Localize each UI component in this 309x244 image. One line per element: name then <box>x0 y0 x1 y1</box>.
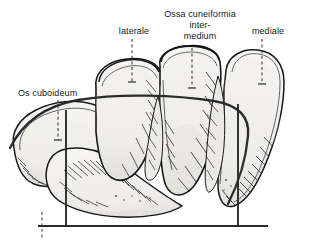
bone-cuneiforme-mediale <box>218 50 284 207</box>
label-ossa-cuneiformia-group: Ossa cuneiformia inter- medium <box>164 9 236 42</box>
label-os-cuboideum: Os cuboideum <box>18 88 77 99</box>
label-intermedium-line1: inter- <box>164 20 236 31</box>
anatomical-figure: Os cuboideum laterale Ossa cuneiformia i… <box>0 0 309 244</box>
label-intermedium-line2: medium <box>164 31 236 42</box>
label-ossa-cuneiformia: Ossa cuneiformia <box>164 9 236 20</box>
label-cuneiforme-mediale: mediale <box>252 26 284 37</box>
label-cuneiforme-laterale: laterale <box>119 26 149 37</box>
